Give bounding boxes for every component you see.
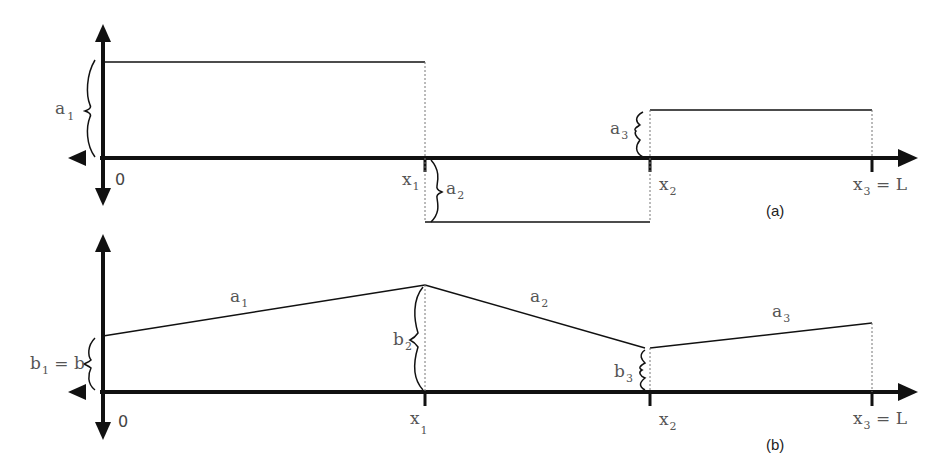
caption-a: (a): [766, 202, 784, 219]
brace-a3-icon: [635, 112, 643, 157]
y-axis-arrow-up-icon: [95, 234, 111, 252]
tick-label-x3: x3 = L: [853, 408, 907, 432]
y-axis-arrow-up-icon: [95, 24, 111, 42]
brace-b1-icon: [84, 338, 95, 390]
linear-segment-1: [103, 285, 425, 336]
tick-label-x2: x2: [659, 174, 677, 198]
label-b3: b3: [614, 361, 633, 385]
label-slope-a2: a2: [530, 286, 548, 310]
linear-segment-3: [650, 323, 872, 348]
label-b1: b1 = b: [30, 353, 85, 377]
tick-label-x3: x3 = L: [853, 174, 907, 198]
x-axis-arrow-left-icon: [68, 384, 86, 400]
panel-b: a1 a2 a3 b1 = b b2 b3 0 x1 x2 x3 = L (b): [30, 234, 918, 453]
brace-b2-icon: [410, 287, 423, 390]
x-axis-arrow-left-icon: [68, 150, 86, 166]
tick-label-x1: x1: [410, 408, 428, 437]
origin-label: 0: [118, 412, 128, 431]
panel-a: a1 a2 a3 0 x1 x2 x3 = L (a): [55, 24, 918, 222]
label-slope-a1: a1: [230, 286, 248, 310]
origin-label: 0: [115, 170, 125, 189]
brace-b3-icon: [640, 350, 645, 390]
tick-label-x1: x1: [402, 169, 420, 193]
label-a1: a1: [55, 98, 74, 123]
x-axis-arrow-right-icon: [898, 383, 918, 401]
brace-a2-icon: [431, 160, 442, 222]
label-a2: a2: [446, 178, 464, 202]
brace-a1-icon: [85, 60, 95, 157]
x-axis-arrow-right-icon: [898, 149, 918, 167]
piecewise-function-diagram: a1 a2 a3 0 x1 x2 x3 = L (a) a1 a2 a3: [0, 0, 944, 469]
label-slope-a3: a3: [772, 301, 790, 325]
y-axis-arrow-down-icon: [95, 422, 111, 440]
label-a3: a3: [610, 118, 628, 142]
label-b2: b2: [393, 329, 412, 353]
caption-b: (b): [766, 436, 784, 453]
tick-label-x2: x2: [659, 409, 677, 433]
y-axis-arrow-down-icon: [95, 188, 111, 206]
